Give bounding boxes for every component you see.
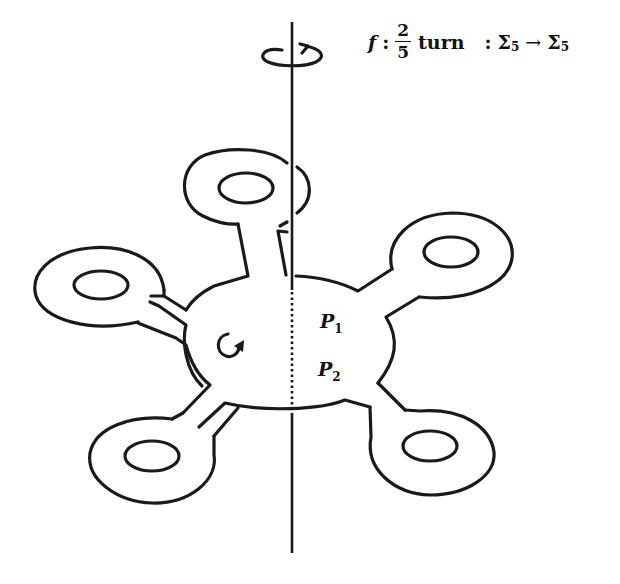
- handle-lower-left: [90, 413, 215, 503]
- handle-top: [184, 150, 309, 226]
- map-caption: f : 2 5 turn : Σ5 → Σ5: [368, 22, 569, 61]
- surface-body-outline: [138, 224, 419, 436]
- fraction-numerator: 2: [395, 22, 411, 42]
- circular-arrow-icon: [218, 334, 244, 357]
- point-label-p2: P2: [318, 358, 341, 380]
- handle-lower-right: [370, 407, 494, 495]
- p1-subscript: 1: [334, 322, 342, 336]
- fraction-denominator: 5: [397, 42, 409, 61]
- domain-subscript: 5: [511, 40, 519, 54]
- domain-symbol: Σ: [497, 31, 510, 53]
- handle-upper-right: [391, 213, 512, 298]
- p1-letter: P: [320, 310, 334, 332]
- p2-subscript: 2: [332, 370, 340, 384]
- caption-colon-2: :: [484, 31, 491, 53]
- surface-diagram: [0, 0, 620, 584]
- codomain-subscript: 5: [561, 40, 569, 54]
- fraction: 2 5: [395, 22, 411, 61]
- codomain-symbol: Σ: [547, 31, 560, 53]
- caption-colon: :: [382, 31, 389, 53]
- p2-letter: P: [318, 358, 332, 380]
- map-name: f: [368, 31, 376, 53]
- diagram-stage: f : 2 5 turn : Σ5 → Σ5 P1 P2: [0, 0, 620, 584]
- turn-word: turn: [418, 31, 464, 53]
- handle-left: [35, 247, 164, 325]
- arrow-icon: →: [525, 31, 541, 53]
- point-label-p1: P1: [320, 310, 343, 332]
